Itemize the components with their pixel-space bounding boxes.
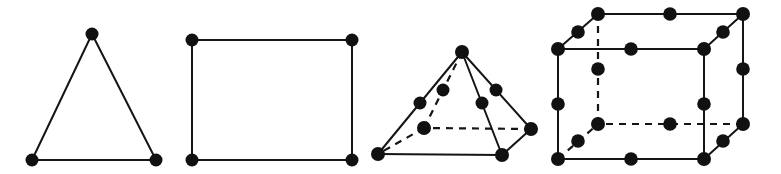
cube-node-midpoint-11 [551,97,565,111]
figures-canvas [0,0,781,174]
cube-node-midpoint-9 [697,97,711,111]
pyramid-node-corner-2 [495,148,509,162]
cube-node-corner-2 [697,152,711,166]
square-node-vertex-2 [346,154,359,167]
cube-node-midpoint-18 [716,134,730,148]
cube-node-midpoint-13 [736,62,750,76]
pyramid-edge-dashed-6 [424,128,531,129]
cube-nodes [551,7,750,166]
geometric-figures-panel [0,0,781,174]
triangle-node-vertex-0 [86,28,99,41]
pyramid-node-corner-3 [524,122,538,136]
cube-node-midpoint-12 [663,7,677,21]
square-edges [192,40,352,160]
cube-node-midpoint-hidden-14 [663,117,677,131]
cube-node-midpoint-16 [571,25,585,39]
triangle-node-vertex-1 [26,154,39,167]
pyramid-node-midpoint-4 [414,97,427,110]
pyramid-node-midpoint-6 [490,84,503,97]
pyramid-edge-solid-4 [378,154,502,155]
cube-node-corner-hidden-7 [591,117,605,131]
square-node-vertex-1 [346,34,359,47]
cube-node-midpoint-hidden-19 [571,134,585,148]
square-node-vertex-0 [186,34,199,47]
cube-node-corner-3 [551,152,565,166]
triangle-edge-solid-1 [92,34,156,160]
cube-node-corner-1 [697,42,711,56]
pyramid-node-midpoint-5 [476,97,489,110]
pyramid-node-corner-hidden-8 [417,121,431,135]
cube-node-corner-4 [591,7,605,21]
shape-cube [551,7,750,166]
shapes-group [26,7,751,167]
cube-node-midpoint-10 [624,152,638,166]
cube-node-corner-0 [551,42,565,56]
pyramid-edge-dashed-7 [378,128,424,154]
pyramid-node-midpoint-7 [437,84,450,97]
cube-node-midpoint-8 [624,42,638,56]
shape-triangle [26,28,163,167]
pyramid-node-apex-0 [455,45,469,59]
cube-node-midpoint-hidden-15 [591,62,605,76]
cube-node-corner-5 [736,7,750,21]
square-node-vertex-3 [186,154,199,167]
cube-node-corner-6 [736,117,750,131]
square-nodes [186,34,359,167]
triangle-edge-solid-0 [32,34,92,160]
pyramid-edges [378,52,531,155]
triangle-edges [32,34,156,160]
shape-square [186,34,359,167]
triangle-nodes [26,28,163,167]
triangle-node-vertex-2 [150,154,163,167]
pyramid-node-corner-1 [371,147,385,161]
cube-edges [558,14,743,159]
cube-node-midpoint-17 [716,25,730,39]
shape-pyramid [371,45,538,162]
